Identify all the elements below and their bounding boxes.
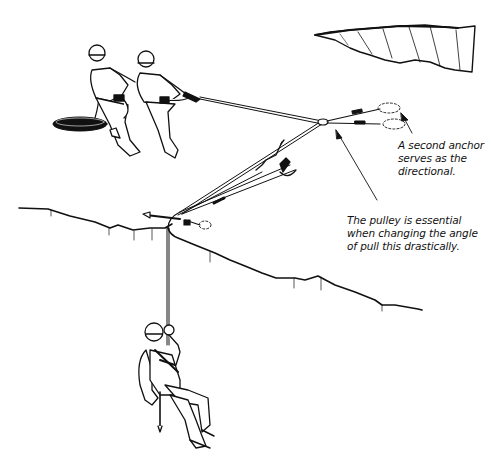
annotation-second-anchor: A second anchor serves as the directiona… [398,139,491,178]
haul-ropes [178,97,322,215]
haul-system-illustration: A second anchor serves as the directiona… [0,0,491,471]
edge-anchor [143,212,211,229]
hauler-right [137,51,200,158]
annotation-pulley: The pulley is essential when changing th… [347,214,487,253]
hauler-left [89,45,140,156]
directional-pulley [318,109,380,125]
far-crevasse [315,25,475,72]
rope-grab [214,140,296,203]
fallen-climber [139,323,214,448]
